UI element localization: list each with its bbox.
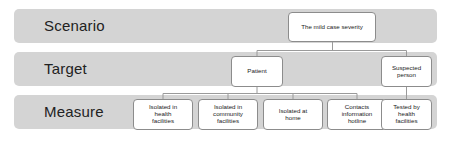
row-label-target: Target [44,60,87,77]
diagram-canvas: Scenario Target Measure The mild case se… [0,0,451,142]
node-isolated-health-facilities[interactable]: Isolated in health facilities [133,99,193,130]
node-patient[interactable]: Patient [231,56,283,87]
node-isolated-at-home[interactable]: Isolated at home [263,99,323,130]
node-suspected-person[interactable]: Suspected person [381,56,432,87]
row-label-measure: Measure [44,103,104,120]
node-mild-case-severity[interactable]: The mild case severity [288,12,376,42]
node-tested-by-health-facilities[interactable]: Tested by health facilities [381,99,432,130]
node-isolated-community-facilities[interactable]: Isolated in community facilities [198,99,258,130]
node-contacts-information-hotline[interactable]: Contacts information hotline [327,99,387,130]
row-label-scenario: Scenario [44,17,105,34]
